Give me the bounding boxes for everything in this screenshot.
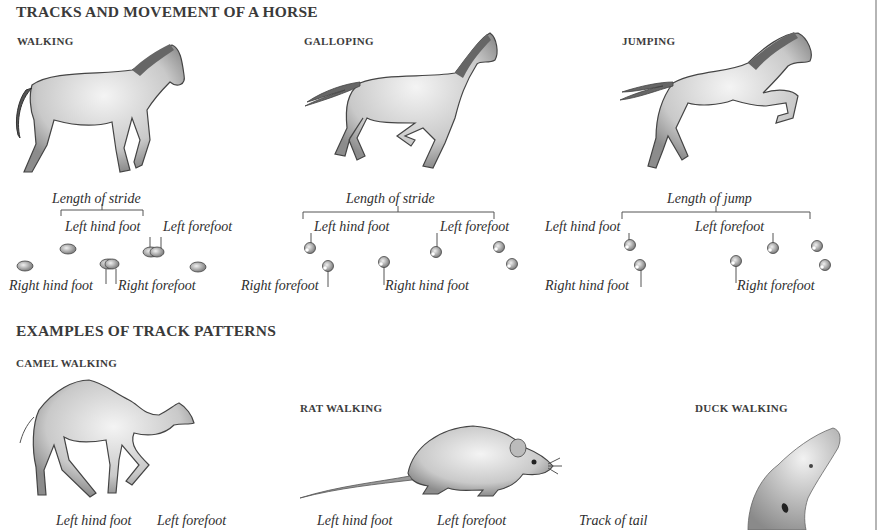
footprint — [431, 247, 442, 258]
rat-left-hind-label: Left hind foot — [317, 513, 392, 529]
galloping-left-hind-label: Left hind foot — [314, 219, 389, 235]
camel-illustration — [14, 375, 199, 500]
jumping-left-hind-label: Left hind foot — [545, 219, 620, 235]
walking-right-fore-label: Right forefoot — [118, 278, 196, 294]
walking-left-hind-label: Left hind foot — [65, 219, 140, 235]
camel-left-fore-label: Left forefoot — [157, 513, 226, 529]
footprint — [812, 241, 823, 252]
camel-left-hind-label: Left hind foot — [56, 513, 131, 529]
walking-stride-label: Length of stride — [52, 191, 141, 207]
footprint — [731, 256, 742, 267]
heading-rat-walking: RAT WALKING — [300, 402, 382, 414]
footprint — [379, 257, 390, 268]
jumping-length-label: Length of jump — [667, 191, 752, 207]
footprint — [820, 260, 831, 271]
jumping-left-fore-label: Left forefoot — [695, 219, 764, 235]
gallop-jump-footprints — [0, 0, 882, 300]
jumping-right-hind-label: Right hind foot — [545, 278, 629, 294]
footprint — [635, 260, 646, 271]
section-title-track-patterns: EXAMPLES OF TRACK PATTERNS — [16, 322, 276, 340]
rat-illustration — [298, 418, 563, 503]
rat-tail-track-label: Track of tail — [579, 513, 647, 529]
jumping-right-fore-label: Right forefoot — [737, 278, 815, 294]
heading-duck-walking: DUCK WALKING — [695, 402, 788, 414]
footprint — [494, 242, 505, 253]
galloping-stride-label: Length of stride — [346, 191, 435, 207]
duck-illustration — [738, 420, 848, 530]
footprint — [305, 243, 316, 254]
page-border — [875, 0, 877, 530]
galloping-left-fore-label: Left forefoot — [440, 219, 509, 235]
galloping-right-fore-label: Right forefoot — [241, 278, 319, 294]
footprint — [625, 240, 636, 251]
galloping-right-hind-label: Right hind foot — [385, 278, 469, 294]
walking-right-hind-label: Right hind foot — [9, 278, 93, 294]
footprint — [323, 261, 334, 272]
walking-left-fore-label: Left forefoot — [163, 219, 232, 235]
footprint — [768, 243, 779, 254]
rat-left-fore-label: Left forefoot — [437, 513, 506, 529]
footprint — [507, 259, 518, 270]
heading-camel-walking: CAMEL WALKING — [16, 357, 117, 369]
